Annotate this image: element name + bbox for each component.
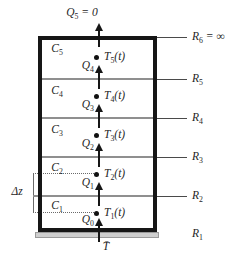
capacitance-base: C — [51, 123, 59, 135]
resistance-sub: 4 — [199, 117, 203, 126]
node-suffix: (t) — [114, 167, 125, 179]
node-dot — [94, 211, 99, 216]
flow-sub: 3 — [90, 104, 94, 113]
resistance-base: R — [192, 150, 199, 162]
flow-label: Q4 — [82, 60, 94, 73]
flow-label: Q3 — [82, 99, 94, 112]
node-label: T2(t) — [104, 168, 125, 181]
capacitance-sub: 1 — [59, 205, 63, 214]
resistance-label: R3 — [192, 151, 203, 164]
resistance-label: R2 — [192, 190, 203, 203]
resistance-base: R — [192, 111, 199, 123]
resistance-label: R4 — [192, 112, 203, 125]
flow-sub: 2 — [90, 143, 94, 152]
flow-label: Q0 — [82, 214, 94, 227]
node-dot — [94, 172, 99, 177]
node-suffix: (t) — [114, 50, 125, 62]
resistance-label: R6 = ∞ — [192, 31, 225, 44]
top-flux-label: Q5 = 0 — [66, 7, 97, 20]
heat-flow-arrow-stem — [98, 189, 100, 206]
capacitance-sub: 4 — [59, 90, 63, 99]
capacitance-sub: 5 — [59, 48, 63, 57]
heat-flow-arrow-stem — [98, 30, 100, 47]
heat-flow-arrow-stem — [98, 150, 100, 167]
heat-flow-arrow-stem — [98, 111, 100, 128]
node-dot — [94, 133, 99, 138]
flow-label: Q2 — [82, 138, 94, 151]
heat-flow-arrow-stem — [98, 225, 100, 242]
capacitance-label: C5 — [51, 43, 63, 56]
resistance-label: R5 — [192, 73, 203, 86]
node-label: T3(t) — [104, 129, 125, 142]
flow-sub: 1 — [90, 182, 94, 191]
capacitance-label: C1 — [51, 200, 63, 213]
resistance-suffix: = ∞ — [203, 30, 225, 42]
capacitance-base: C — [51, 42, 59, 54]
resistance-sub: 1 — [199, 233, 203, 242]
resistance-base: R — [192, 30, 199, 42]
node-suffix: (t) — [114, 128, 125, 140]
capacitance-label: C3 — [51, 124, 63, 137]
top-flux-suffix: = 0 — [78, 6, 97, 18]
base-plate — [35, 232, 159, 238]
resistance-leader-line — [152, 118, 187, 119]
delta-z-bracket — [33, 173, 34, 213]
resistance-base: R — [192, 189, 199, 201]
capacitance-sub: 2 — [59, 167, 63, 176]
base-temperature-label: T̄ — [103, 241, 109, 253]
resistance-sub: 2 — [199, 195, 203, 204]
node-label: T5(t) — [104, 51, 125, 64]
node-dot — [94, 55, 99, 60]
capacitance-label: C2 — [51, 162, 63, 175]
capacitance-base: C — [51, 199, 59, 211]
capacitance-base: C — [51, 84, 59, 96]
resistance-leader-line — [152, 79, 187, 80]
resistance-base: R — [192, 72, 199, 84]
resistance-leader-line — [152, 196, 187, 197]
node-dot — [94, 94, 99, 99]
node-label: T4(t) — [104, 90, 125, 103]
capacitance-sub: 3 — [59, 129, 63, 138]
resistance-sub: 3 — [199, 156, 203, 165]
resistance-sub: 5 — [199, 78, 203, 87]
node-label: T1(t) — [104, 207, 125, 220]
delta-z-label: Δz — [11, 186, 22, 198]
node-suffix: (t) — [114, 206, 125, 218]
flow-sub: 0 — [90, 219, 94, 228]
thermal-network-diagram: Q5 = 0 C5 C4 C3 C2 C1 T5(t) T4(t) T3(t) … — [0, 0, 231, 263]
resistance-leader-line — [152, 37, 187, 38]
resistance-leader-line — [152, 157, 187, 158]
flow-sub: 4 — [90, 65, 94, 74]
flow-label: Q1 — [82, 177, 94, 190]
resistance-label: R1 — [192, 228, 203, 241]
capacitance-base: C — [51, 161, 59, 173]
node-suffix: (t) — [114, 89, 125, 101]
heat-flow-arrow-stem — [98, 72, 100, 89]
capacitance-label: C4 — [51, 85, 63, 98]
resistance-base: R — [192, 227, 199, 239]
